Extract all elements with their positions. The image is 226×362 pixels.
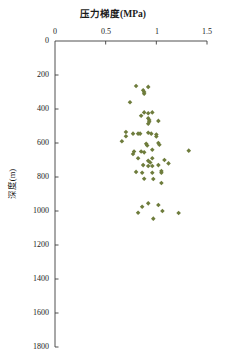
data-point [139,114,144,119]
data-point [159,181,164,186]
data-point [151,177,156,182]
data-point [166,161,171,166]
data-point [156,163,161,168]
y-axis-ticks [55,75,59,347]
data-point [136,156,141,161]
axis-lines [55,41,207,347]
data-point [141,163,146,168]
data-point [120,139,125,144]
data-point [142,110,147,115]
data-point [146,85,151,90]
data-point [146,111,151,116]
scatter-chart-figure: 压力梯度(MPa) 深度(m) 0 0.5 1 1.5 0 200 400 60… [0,0,226,362]
data-point [140,170,145,175]
data-point [186,148,191,153]
x-axis-ticks [106,41,207,45]
data-point [140,204,145,209]
data-point [134,84,139,89]
data-point [134,170,139,175]
data-point [160,209,165,214]
data-point [124,130,129,135]
data-point [156,203,161,208]
data-point [156,119,161,124]
data-point [176,211,181,216]
plot-area [0,0,226,362]
data-point [131,131,136,136]
data-point [146,201,151,206]
data-point [150,170,155,175]
data-point [150,148,155,153]
data-point [162,158,167,163]
data-point [128,100,133,105]
data-point [142,176,147,181]
data-point [150,110,155,115]
data-point [151,216,156,221]
data-point [150,156,155,161]
scatter-data-markers [120,84,191,221]
data-point [124,134,129,139]
data-point [136,210,141,215]
